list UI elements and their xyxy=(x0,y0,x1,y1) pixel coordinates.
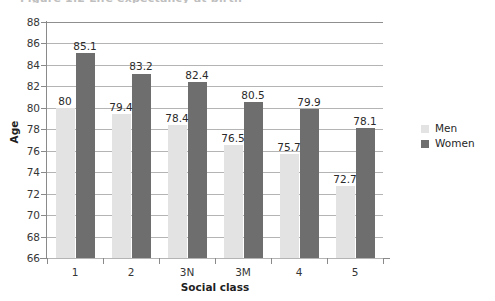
legend-label-men: Men xyxy=(435,123,457,134)
gridline xyxy=(47,108,383,109)
y-tick: 74 xyxy=(14,167,40,177)
bar-women-4 xyxy=(300,109,319,258)
y-tick-label: 74 xyxy=(16,167,40,177)
x-tick-label-3M: 3M xyxy=(223,266,263,278)
gridline xyxy=(47,151,383,152)
y-tick: 84 xyxy=(14,60,40,70)
bar-women-3N xyxy=(188,82,207,258)
x-axis-title: Social class xyxy=(47,281,383,293)
y-tick-label: 76 xyxy=(16,146,40,156)
legend-swatch-women-icon xyxy=(421,140,429,148)
x-tick-mark xyxy=(327,258,328,264)
y-tick-label: 82 xyxy=(16,81,40,91)
x-tick-mark xyxy=(47,258,48,264)
bar-men-1 xyxy=(56,108,75,258)
bar-value-women-1: 85.1 xyxy=(65,40,105,52)
gridline xyxy=(47,65,383,66)
bar-value-women-5: 78.1 xyxy=(345,115,385,127)
x-tick-label-2: 2 xyxy=(111,266,151,278)
bar-value-men-3N: 78.4 xyxy=(157,112,197,124)
bar-men-2 xyxy=(112,114,131,258)
legend-swatch-men-icon xyxy=(421,125,429,133)
y-tick: 70 xyxy=(14,210,40,220)
y-tick-label: 86 xyxy=(16,38,40,48)
x-tick-label-5: 5 xyxy=(335,266,375,278)
x-tick-label-3N: 3N xyxy=(167,266,207,278)
gridline xyxy=(47,237,383,238)
y-tick-label: 70 xyxy=(16,210,40,220)
y-tick: 72 xyxy=(14,189,40,199)
bar-value-men-5: 72.7 xyxy=(325,173,365,185)
y-tick: 82 xyxy=(14,81,40,91)
y-tick: 76 xyxy=(14,146,40,156)
x-tick-mark xyxy=(383,258,384,264)
bar-women-5 xyxy=(356,128,375,258)
gridline xyxy=(47,22,383,23)
legend-item-women[interactable]: Women xyxy=(421,136,475,151)
bar-value-women-3N: 82.4 xyxy=(177,69,217,81)
y-tick-label: 80 xyxy=(16,103,40,113)
x-tick-mark xyxy=(271,258,272,264)
figure-caption-sliver: Figure 1.2 Life expectancy at birth xyxy=(20,0,320,3)
x-tick-mark xyxy=(103,258,104,264)
bar-value-women-3M: 80.5 xyxy=(233,89,273,101)
y-tick-label: 84 xyxy=(16,60,40,70)
gridline xyxy=(47,86,383,87)
bar-value-men-3M: 76.5 xyxy=(213,132,253,144)
gridline xyxy=(47,129,383,130)
y-tick-label: 68 xyxy=(16,232,40,242)
bar-value-men-2: 79.4 xyxy=(101,101,141,113)
gridline xyxy=(47,194,383,195)
y-tick: 68 xyxy=(14,232,40,242)
y-tick-label: 78 xyxy=(16,124,40,134)
y-tick: 80 xyxy=(14,103,40,113)
bar-women-1 xyxy=(76,53,95,258)
bar-value-men-1: 80 xyxy=(45,95,85,107)
y-tick-label: 72 xyxy=(16,189,40,199)
y-tick-label: 88 xyxy=(16,17,40,27)
y-tick-label: 66 xyxy=(16,253,40,263)
bar-value-women-4: 79.9 xyxy=(289,96,329,108)
bar-men-4 xyxy=(280,154,299,258)
legend-label-women: Women xyxy=(435,138,475,149)
y-tick: 88 xyxy=(14,17,40,27)
y-tick: 66 xyxy=(14,253,40,263)
bar-men-3N xyxy=(168,125,187,258)
bar-value-women-2: 83.2 xyxy=(121,60,161,72)
x-tick-mark xyxy=(159,258,160,264)
bar-value-men-4: 75.7 xyxy=(269,141,309,153)
gridline xyxy=(47,215,383,216)
bar-women-3M xyxy=(244,102,263,258)
bar-men-3M xyxy=(224,145,243,258)
figure-container: Figure 1.2 Life expectancy at birth Age … xyxy=(0,0,495,301)
x-tick-mark xyxy=(215,258,216,264)
bar-men-5 xyxy=(336,186,355,258)
chart-legend: Men Women xyxy=(421,121,475,151)
y-tick: 86 xyxy=(14,38,40,48)
y-tick: 78 xyxy=(14,124,40,134)
x-tick-label-4: 4 xyxy=(279,266,319,278)
legend-item-men[interactable]: Men xyxy=(421,121,475,136)
x-tick-label-1: 1 xyxy=(55,266,95,278)
